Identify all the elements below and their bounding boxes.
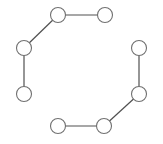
graph-node	[17, 41, 32, 56]
graph-node	[98, 8, 113, 23]
edges-group	[24, 15, 139, 126]
graph-node	[97, 119, 112, 134]
graph-node	[51, 8, 66, 23]
graph-node	[132, 41, 147, 56]
graph-diagram	[0, 0, 163, 144]
nodes-group	[17, 8, 147, 134]
graph-node	[132, 87, 147, 102]
graph-node	[17, 87, 32, 102]
graph-node	[51, 119, 66, 134]
